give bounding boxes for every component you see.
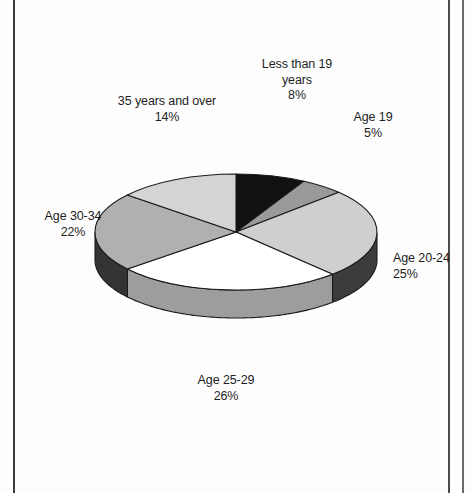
slice-value: 25% — [393, 267, 474, 283]
slice-label-text: Age 25-29 — [198, 373, 255, 387]
slice-label-age-19: Age 19 5% — [328, 110, 418, 141]
slice-label-text: Age 19 — [353, 110, 392, 124]
pie-chart-graphic — [15, 10, 448, 488]
pie-chart-figure: Less than 19 years 8% Age 19 5% Age 20-2… — [15, 10, 448, 488]
slice-label-age-30-34: Age 30-34 22% — [23, 209, 123, 240]
slice-value: 26% — [161, 389, 291, 405]
page-border-right-inner — [448, 0, 450, 493]
page-border-right-outer — [462, 0, 464, 493]
slice-label-35-and-over: 35 years and over 14% — [77, 94, 257, 125]
slice-value: 22% — [23, 225, 123, 241]
slice-label-text: Age 20-24 — [393, 251, 450, 265]
slice-label-text: 35 years and over — [118, 94, 216, 108]
slice-label-age-25-29: Age 25-29 26% — [161, 373, 291, 404]
slice-value: 5% — [328, 126, 418, 142]
slice-label-text: Age 30-34 — [45, 209, 102, 223]
slice-label-text-2: years — [237, 73, 357, 89]
pie-slices — [95, 174, 377, 290]
slice-label-text: Less than 19 — [262, 57, 332, 71]
slice-value: 14% — [77, 110, 257, 126]
slice-label-age-20-24: Age 20-24 25% — [393, 251, 474, 282]
